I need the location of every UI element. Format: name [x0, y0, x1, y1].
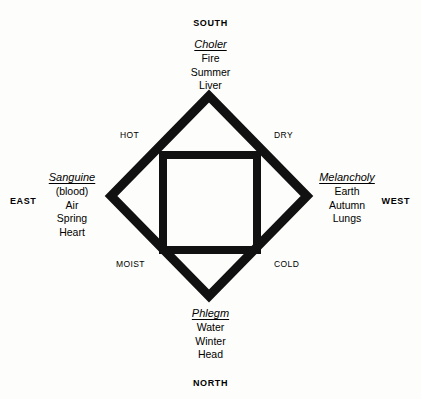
quality-label-hot: HOT — [120, 130, 139, 141]
cardinal-label-north: NORTH — [0, 378, 421, 389]
humour-title-choler: Choler — [0, 37, 421, 52]
humour-block-sanguine: Sanguine (blood) Air Spring Heart — [31, 170, 113, 239]
humour-line: Autumn — [301, 199, 393, 213]
humour-line: (blood) — [31, 185, 113, 199]
quality-label-dry: DRY — [274, 130, 293, 141]
humour-line: Fire — [0, 52, 421, 66]
humour-block-choler: Choler Fire Summer Liver — [0, 37, 421, 93]
humour-line: Earth — [301, 185, 393, 199]
humour-block-melancholy: Melancholy Earth Autumn Lungs — [301, 170, 393, 226]
humour-title-phlegm: Phlegm — [0, 306, 421, 321]
humour-title-melancholy: Melancholy — [301, 170, 393, 185]
humour-line: Air — [31, 199, 113, 213]
humour-line: Winter — [0, 335, 421, 349]
humour-line: Summer — [0, 66, 421, 80]
diagram-canvas: SOUTH NORTH EAST WEST HOT DRY MOIST COLD… — [0, 0, 421, 399]
quality-label-moist: MOIST — [116, 259, 145, 270]
humour-line: Spring — [31, 212, 113, 226]
inner-square-outline — [163, 155, 257, 250]
quality-label-cold: COLD — [274, 259, 299, 270]
humour-line: Heart — [31, 226, 113, 240]
cardinal-label-south: SOUTH — [0, 18, 421, 29]
humour-title-sanguine: Sanguine — [31, 170, 113, 185]
humour-line: Liver — [0, 79, 421, 93]
humour-line: Water — [0, 321, 421, 335]
humour-line: Head — [0, 348, 421, 362]
humour-line: Lungs — [301, 212, 393, 226]
humour-block-phlegm: Phlegm Water Winter Head — [0, 306, 421, 362]
